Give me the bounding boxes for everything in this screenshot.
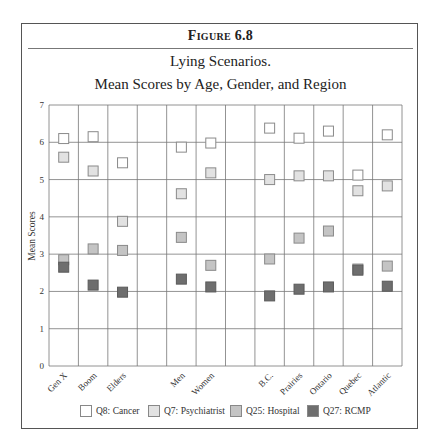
legend-item-q27: Q27: RCMP [307, 403, 371, 419]
y-axis-ticks: 01234567 [40, 100, 45, 371]
y-tick-label: 7 [40, 100, 45, 110]
x-axis-labels: Gen XBoomEldersMenWomenB.C.PrairiesOntar… [45, 370, 392, 398]
data-point-q25 [294, 233, 304, 243]
data-point-q25 [206, 260, 216, 270]
x-tick-label: Men [168, 370, 187, 389]
data-point-q8 [265, 123, 275, 133]
data-point-q8 [176, 142, 186, 152]
chart-legend: Q8: Cancer Q7: Psychiatrist Q25: Hospita… [0, 403, 441, 419]
legend-item-q8: Q8: Cancer [80, 403, 140, 419]
data-point-q7 [59, 152, 69, 162]
data-point-q8 [382, 130, 392, 140]
x-tick-label: Quebec [337, 370, 364, 397]
x-tick-label: Atlantic [365, 370, 393, 398]
data-point-q25 [382, 261, 392, 271]
data-point-q27 [88, 280, 98, 290]
y-tick-label: 5 [40, 175, 45, 185]
legend-swatch-q27 [307, 405, 319, 417]
x-tick-label: Ontario [307, 370, 334, 397]
data-point-q27 [176, 274, 186, 284]
data-point-q27 [59, 262, 69, 272]
data-point-q8 [353, 170, 363, 180]
y-tick-label: 3 [40, 249, 45, 259]
x-tick-label: Gen X [45, 370, 69, 394]
data-point-q25 [118, 245, 128, 255]
legend-label: Q27: RCMP [323, 406, 371, 416]
x-tick-label: Elders [105, 370, 129, 394]
data-point-q7 [382, 181, 392, 191]
data-point-q7 [176, 189, 186, 199]
x-tick-label: Prairies [278, 370, 305, 397]
data-point-q25 [176, 232, 186, 242]
y-tick-label: 0 [40, 361, 45, 371]
y-tick-label: 2 [40, 286, 45, 296]
data-point-q7 [88, 166, 98, 176]
data-point-q27 [118, 287, 128, 297]
data-point-q25 [88, 244, 98, 254]
y-tick-label: 4 [40, 212, 45, 222]
data-point-q27 [206, 282, 216, 292]
data-point-q8 [294, 133, 304, 143]
legend-swatch-q25 [230, 405, 242, 417]
data-point-q25 [265, 254, 275, 264]
data-point-q27 [353, 265, 363, 275]
data-point-q8 [88, 132, 98, 142]
data-point-q27 [382, 281, 392, 291]
x-tick-label: Women [189, 370, 216, 397]
data-point-q8 [206, 138, 216, 148]
data-point-q7 [206, 168, 216, 178]
data-point-q27 [323, 282, 333, 292]
data-point-q27 [265, 291, 275, 301]
data-point-q7 [294, 171, 304, 181]
data-point-q7 [265, 175, 275, 185]
y-axis-label: Mean Scores [27, 211, 37, 261]
x-tick-label: B.C. [256, 370, 275, 389]
chart-grid [49, 105, 402, 366]
legend-item-q7: Q7: Psychiatrist [148, 403, 225, 419]
y-tick-label: 6 [40, 137, 45, 147]
legend-swatch-q8 [80, 405, 92, 417]
legend-swatch-q7 [148, 405, 160, 417]
x-tick-label: Boom [76, 370, 99, 393]
data-point-q8 [118, 158, 128, 168]
data-point-q8 [323, 126, 333, 136]
data-point-q27 [294, 284, 304, 294]
data-point-q7 [353, 186, 363, 196]
data-point-q8 [59, 134, 69, 144]
data-point-q7 [323, 171, 333, 181]
legend-label: Q25: Hospital [246, 406, 300, 416]
scatter-chart: 01234567 Mean Scores Gen XBoomEldersMenW… [0, 0, 441, 448]
data-point-q7 [118, 216, 128, 226]
data-point-q25 [323, 226, 333, 236]
legend-label: Q7: Psychiatrist [164, 406, 225, 416]
legend-label: Q8: Cancer [96, 406, 140, 416]
y-tick-label: 1 [40, 324, 45, 334]
legend-item-q25: Q25: Hospital [230, 403, 300, 419]
